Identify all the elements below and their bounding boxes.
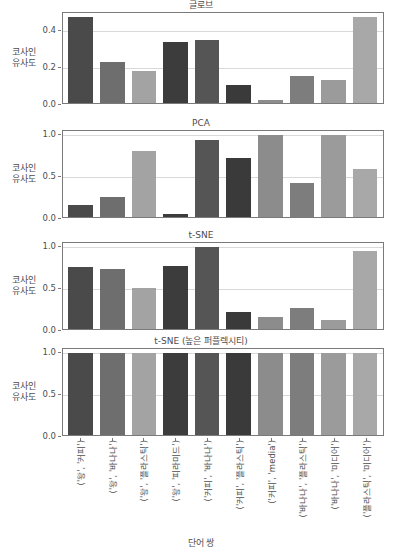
bar-group [63, 349, 383, 435]
y-tick-label: 0.5 [20, 171, 56, 181]
bar [226, 353, 251, 435]
bar [321, 353, 346, 435]
bar [100, 62, 125, 103]
y-tick-label: 1.0 [20, 347, 56, 357]
x-tick-label: ('왕', '바나나') [106, 440, 118, 493]
bar [258, 135, 283, 217]
bar [226, 158, 251, 217]
bar-slot [349, 13, 381, 103]
bar [163, 266, 188, 329]
bar-slot [65, 131, 97, 217]
bar-slot [160, 13, 192, 103]
y-tick-label: 0.0 [20, 325, 56, 335]
x-tick-slot: ('커피', 'media') [255, 438, 287, 530]
x-tick-label: ('커피', '플라스틱') [233, 440, 245, 509]
panel-title: t-SNE [0, 230, 402, 241]
y-tick-mark [58, 394, 61, 395]
bar-slot [318, 131, 350, 217]
bar-slot [128, 131, 160, 217]
bar-slot [65, 349, 97, 435]
panel-title: t-SNE (높은 퍼플렉시티) [0, 336, 402, 347]
bar-slot [255, 131, 287, 217]
y-tick-mark [58, 288, 61, 289]
y-tick-mark [58, 176, 61, 177]
bar-slot [191, 13, 223, 103]
bar-slot [349, 243, 381, 329]
y-tick-label: 0.2 [20, 62, 56, 72]
y-tick-mark [58, 30, 61, 31]
bar [258, 100, 283, 103]
axes [62, 130, 384, 218]
bar-slot [255, 349, 287, 435]
bar-slot [223, 349, 255, 435]
bar [321, 135, 346, 217]
bar [163, 214, 188, 217]
panel-tsne-high-perplexity: t-SNE (높은 퍼플렉시티) 코사인 유사도 0.00.51.0 [0, 336, 402, 448]
axes [62, 12, 384, 104]
bar [132, 288, 157, 329]
x-tick-slot: ('바나나', '미디어') [318, 438, 350, 530]
bar-slot [160, 131, 192, 217]
bar [353, 169, 378, 217]
bar-slot [160, 349, 192, 435]
bar-slot [255, 13, 287, 103]
bar [353, 251, 378, 329]
y-tick-label: 0.0 [20, 431, 56, 441]
panel-pca: PCA 코사인 유사도 0.00.51.0 [0, 118, 402, 230]
bar [195, 140, 220, 217]
bar-slot [286, 349, 318, 435]
bar-slot [160, 243, 192, 329]
y-tick-label: 0.0 [20, 213, 56, 223]
bar [100, 269, 125, 329]
y-tick-label: 1.0 [20, 129, 56, 139]
x-tick-slot: ('플라스틱', '미디어') [350, 438, 382, 530]
x-tick-label: ('바나나', '플라스틱') [296, 440, 308, 517]
y-tick-mark [58, 218, 61, 219]
bar-slot [318, 243, 350, 329]
bar-slot [97, 349, 129, 435]
bar-slot [191, 131, 223, 217]
bar [226, 85, 251, 103]
axes [62, 242, 384, 330]
bar-slot [65, 243, 97, 329]
x-axis-title: 단어 쌍 [0, 536, 402, 549]
panel-tsne: t-SNE 코사인 유사도 0.00.51.0 [0, 230, 402, 342]
bar-slot [191, 243, 223, 329]
x-tick-slot: ('왕', '커피') [64, 438, 96, 530]
x-tick-slot: ('커피', '플라스틱') [223, 438, 255, 530]
y-tick-label: 1.0 [20, 241, 56, 251]
bar [321, 320, 346, 329]
axes [62, 348, 384, 436]
bar [290, 76, 315, 103]
x-tick-slot: ('왕', '플라스틱') [128, 438, 160, 530]
bar [100, 197, 125, 217]
y-tick-mark [58, 352, 61, 353]
panel-glove: 글로브 코사인 유사도 0.00.20.4 [0, 0, 402, 118]
bar [321, 80, 346, 103]
bar [100, 353, 125, 435]
x-tick-label: ('커피', '바나나') [201, 440, 213, 501]
bar [68, 267, 93, 329]
bar [163, 353, 188, 435]
bar [353, 17, 378, 103]
bar [195, 40, 220, 103]
bar [195, 353, 220, 435]
x-tick-slot: ('왕', '피라미드') [159, 438, 191, 530]
y-tick-mark [58, 104, 61, 105]
y-tick-mark [58, 134, 61, 135]
bar-slot [223, 243, 255, 329]
x-tick-label: ('커피', 'media') [265, 440, 277, 504]
y-tick-mark [58, 436, 61, 437]
x-tick-label: ('바나나', '미디어') [328, 440, 340, 509]
bar-slot [349, 349, 381, 435]
bar [195, 247, 220, 329]
bar-slot [128, 13, 160, 103]
bar-slot [349, 131, 381, 217]
bar-slot [255, 243, 287, 329]
bar-slot [318, 349, 350, 435]
bar-slot [318, 13, 350, 103]
bar [258, 317, 283, 329]
x-axis-tick-labels: ('왕', '커피')('왕', '바나나')('왕', '플라스틱')('왕'… [62, 438, 384, 530]
y-tick-label: 0.5 [20, 389, 56, 399]
x-tick-label: ('왕', '피라미드') [169, 440, 181, 501]
